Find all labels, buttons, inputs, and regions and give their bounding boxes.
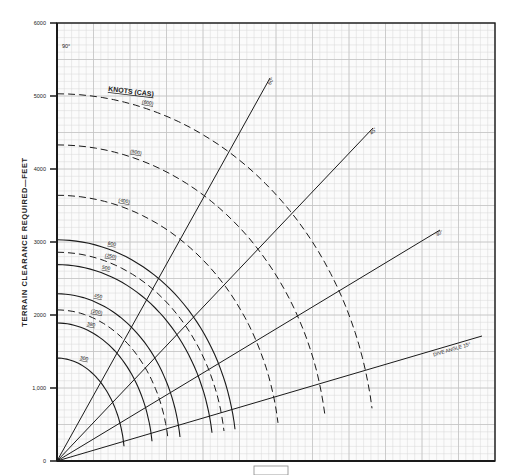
y-tick-label: 2000 — [34, 312, 46, 318]
y-axis-label: TERRAIN CLEARANCE REQUIRED—FEET — [20, 157, 29, 326]
chart-svg: 01,00020003000400050006000TERRAIN CLEARA… — [0, 0, 512, 475]
y-tick-label: 4000 — [34, 166, 46, 172]
dive-clearance-chart: 01,00020003000400050006000TERRAIN CLEARA… — [0, 0, 512, 475]
corner-angle-label: 90° — [62, 43, 70, 49]
y-tick-label: 1,000 — [32, 385, 46, 391]
y-tick-label: 6000 — [34, 20, 46, 26]
page-tab-box — [254, 466, 288, 475]
y-tick-label: 3000 — [34, 239, 46, 245]
y-tick-label: 0 — [43, 458, 46, 464]
y-tick-label: 5000 — [34, 93, 46, 99]
